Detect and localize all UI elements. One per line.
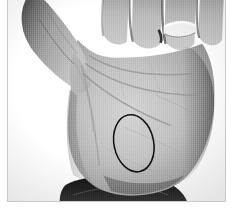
ring-label: Silver band ring (0, 0, 1, 1)
photo-frame (7, 0, 226, 202)
image-subject-label: open human palm with hand-drawn ellipse … (0, 0, 1, 1)
annotation-label: Hand-drawn ellipse highlighting the hypo… (0, 0, 1, 1)
annotation-ellipse-stroke (108, 111, 159, 176)
palm-photograph (8, 0, 225, 201)
screenshot-root: open human palm with hand-drawn ellipse … (0, 0, 239, 215)
ellipse-annotation (8, 0, 225, 201)
